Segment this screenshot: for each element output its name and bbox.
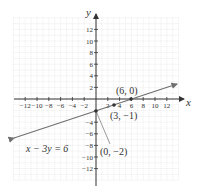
y-tick-label: −6 [86, 130, 94, 138]
x-tick-label: 8 [141, 102, 145, 110]
x-tick-label: −2 [80, 102, 88, 110]
y-tick-label: −8 [86, 142, 94, 150]
x-tick-label: 10 [152, 102, 160, 110]
y-tick-label: 12 [86, 26, 94, 34]
x-tick-label: 12 [163, 102, 171, 110]
y-tick-label: 2 [90, 84, 94, 92]
axes: x y [14, 6, 191, 186]
x-tick-label: −4 [69, 102, 77, 110]
y-tick-label: 4 [90, 72, 94, 80]
point-6-0 [129, 97, 133, 101]
y-axis-label: y [85, 6, 91, 18]
point-0-neg2 [94, 109, 98, 113]
point-label-0-neg2: (0, −2) [100, 146, 127, 158]
x-tick-label: −10 [32, 102, 43, 110]
point-label-6-0: (6, 0) [116, 85, 138, 97]
x-axis-label: x [185, 96, 191, 108]
y-tick-label: 8 [90, 49, 94, 57]
y-tick-label: 6 [90, 61, 94, 69]
y-tick-label: −4 [86, 119, 94, 127]
point-3-neg1 [112, 103, 116, 107]
coordinate-plane: x y −12−10−8−6−4−224681012−12−10−8−6−424… [0, 0, 198, 193]
y-tick-label: 10 [86, 38, 94, 46]
y-tick-label: −10 [82, 154, 93, 162]
x-tick-label: −12 [20, 102, 31, 110]
equation-label: x − 3y = 6 [25, 143, 68, 154]
x-tick-label: −8 [45, 102, 53, 110]
x-tick-label: −6 [57, 102, 65, 110]
y-tick-label: −12 [82, 165, 93, 173]
point-label-3-neg1: (3, −1) [110, 110, 137, 122]
x-tick-label: 6 [130, 102, 134, 110]
